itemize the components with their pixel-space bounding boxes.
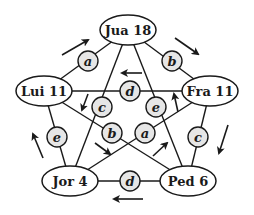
edge-label-d: d: [120, 81, 140, 101]
nodes: Jua 18Lui 11Fra 11Jor 4Ped 6: [16, 15, 238, 196]
edge-label-c: c: [92, 97, 112, 117]
edge-label-e: e: [146, 97, 166, 117]
edge-label-text: c: [194, 130, 202, 145]
node-lui: Lui 11: [16, 76, 72, 106]
edge-label-text: d: [125, 174, 134, 189]
edge-label-text: a: [84, 54, 92, 69]
edge-label-text: c: [98, 100, 106, 115]
edge-label-text: e: [53, 130, 61, 145]
arrow-icon: [175, 38, 198, 54]
node-label: Jua 18: [104, 23, 152, 38]
edge-label-e: e: [47, 127, 67, 147]
edge-label-text: a: [141, 126, 149, 141]
node-fra: Fra 11: [182, 76, 238, 106]
graph-diagram: abdceebacd Jua 18Lui 11Fra 11Jor 4Ped 6: [0, 0, 254, 215]
node-label: Lui 11: [21, 84, 67, 99]
node-jua: Jua 18: [100, 15, 156, 45]
edge-label-b: b: [102, 123, 122, 143]
arrow-icon: [153, 143, 167, 156]
edge-label-d: d: [120, 171, 140, 191]
edge-label-text: b: [167, 54, 176, 69]
arrow-icon: [82, 94, 88, 110]
edge-label-c: c: [188, 127, 208, 147]
node-label: Fra 11: [187, 84, 234, 99]
node-jor: Jor 4: [42, 166, 98, 196]
edge-label-a: a: [78, 51, 98, 71]
edge-lines: [44, 30, 210, 181]
node-label: Jor 4: [51, 174, 87, 189]
edge-label-text: b: [107, 126, 116, 141]
arrow-icon: [95, 143, 110, 154]
arrow-icon: [174, 94, 178, 112]
edge-label-text: d: [125, 84, 134, 99]
edge-label-text: e: [152, 100, 160, 115]
node-label: Ped 6: [168, 174, 208, 189]
arrow-icon: [219, 125, 228, 153]
arrow-icon: [33, 134, 43, 158]
edge-label-a: a: [135, 123, 155, 143]
edge-label-b: b: [162, 51, 182, 71]
node-ped: Ped 6: [160, 166, 216, 196]
